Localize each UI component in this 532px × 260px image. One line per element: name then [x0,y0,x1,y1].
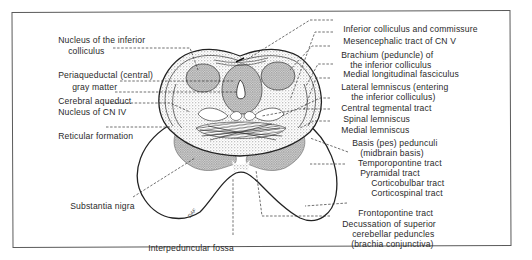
label-reticular-formation: Reticular formation [48,122,133,151]
label-text: colliculus [68,46,104,56]
label-text: Corticospinal tract [371,188,443,198]
tegmentum [159,49,321,156]
label-text: Substantia nigra [70,201,135,211]
inferior-colliculus-left [186,64,220,92]
label-text: (brachia conjunctiva) [351,239,433,249]
label-text: Interpeduncular fossa [148,243,234,253]
label-text: Nucleus of CN IV [58,107,126,117]
label-interpeduncular-fossa: Interpeduncular fossa [138,234,234,260]
label-decussation-line3: (brachia conjunctiva) [341,230,434,259]
label-substantia-nigra: Substantia nigra [60,192,135,221]
label-text: Reticular formation [58,131,133,141]
figure-stage: DAF Nucleus of the infe [0,0,532,260]
inferior-colliculus-right [261,62,295,90]
